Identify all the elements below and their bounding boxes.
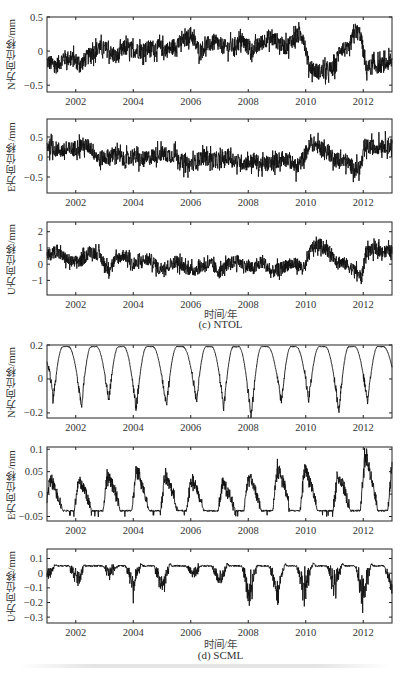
y-tick-label: 0.1 (30, 553, 43, 564)
plot-area: 200220042006200820102012−0.3−0.2−0.100.1 (0, 0, 405, 674)
y-tick-label: −0.2 (24, 597, 43, 608)
y-tick-label: 0 (38, 568, 43, 579)
data-series (47, 563, 392, 613)
scml-u-panel: U方向位移/mm 200220042006200820102012−0.3−0.… (0, 0, 405, 674)
y-tick-label: −0.3 (24, 612, 43, 623)
plot-frame (47, 549, 392, 623)
cropped-figure-caption (20, 664, 390, 668)
y-tick-label: −0.1 (24, 582, 43, 593)
subfigure-caption: (d) SCML (18, 649, 405, 661)
